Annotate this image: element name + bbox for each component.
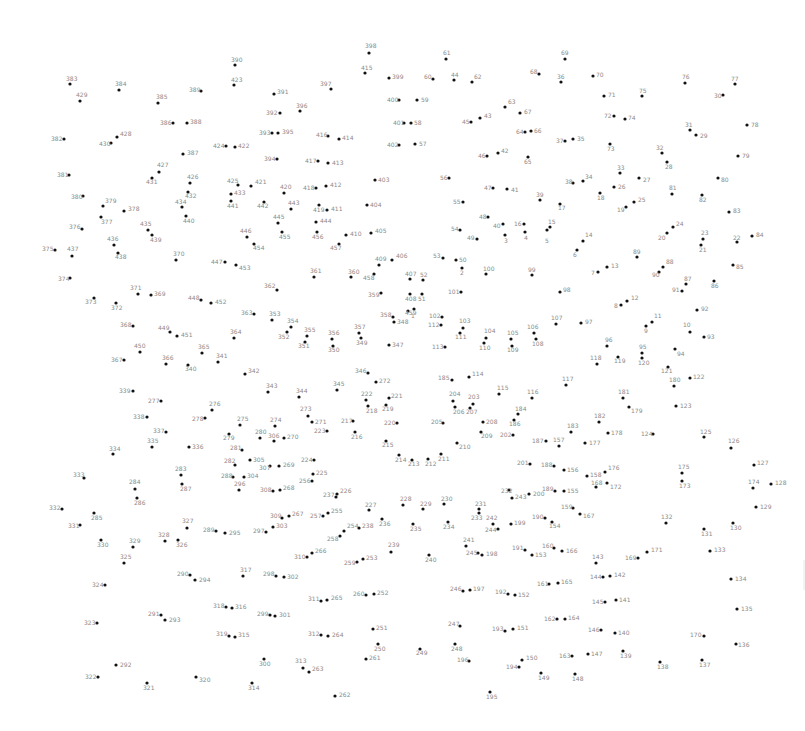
puzzle-dot-number: 132 bbox=[661, 513, 673, 520]
puzzle-dot-number: 205 bbox=[431, 418, 443, 425]
puzzle-dot bbox=[164, 430, 167, 433]
puzzle-dot bbox=[149, 293, 152, 296]
puzzle-dot-number: 18 bbox=[597, 194, 605, 201]
puzzle-dot-number: 250 bbox=[374, 645, 386, 652]
puzzle-dot bbox=[188, 181, 191, 184]
puzzle-dot-number: 222 bbox=[361, 390, 373, 397]
puzzle-dot-number: 204 bbox=[449, 390, 461, 397]
puzzle-dot bbox=[481, 420, 484, 423]
puzzle-dot-number: 265 bbox=[331, 594, 343, 601]
puzzle-dot bbox=[314, 220, 317, 223]
puzzle-dot-number: 422 bbox=[238, 142, 250, 149]
puzzle-dot bbox=[275, 288, 278, 291]
puzzle-dot bbox=[443, 345, 446, 348]
puzzle-dot-number: 313 bbox=[295, 657, 307, 664]
puzzle-dot bbox=[136, 292, 139, 295]
puzzle-dot bbox=[275, 157, 278, 160]
puzzle-dot-number: 456 bbox=[312, 233, 324, 240]
puzzle-dot-number: 184 bbox=[515, 405, 527, 412]
puzzle-dot bbox=[392, 320, 395, 323]
puzzle-dot-number: 346 bbox=[355, 367, 367, 374]
puzzle-dot-number: 71 bbox=[608, 91, 616, 98]
puzzle-dot-number: 398 bbox=[365, 42, 377, 49]
puzzle-dot-number: 300 bbox=[259, 660, 271, 667]
puzzle-dot-number: 101 bbox=[448, 288, 460, 295]
puzzle-dot bbox=[694, 133, 697, 136]
puzzle-dot-number: 207 bbox=[466, 408, 478, 415]
puzzle-dot-number: 149 bbox=[538, 674, 550, 681]
puzzle-dot bbox=[223, 531, 226, 534]
puzzle-dot bbox=[619, 303, 622, 306]
puzzle-dot bbox=[230, 606, 233, 609]
puzzle-dot bbox=[270, 131, 273, 134]
puzzle-dot-number: 388 bbox=[190, 118, 202, 125]
puzzle-dot bbox=[415, 98, 418, 101]
puzzle-dot bbox=[333, 694, 336, 697]
puzzle-dot-number: 342 bbox=[248, 367, 260, 374]
puzzle-dot bbox=[203, 416, 206, 419]
puzzle-dot-number: 327 bbox=[182, 517, 194, 524]
puzzle-dot bbox=[357, 331, 360, 334]
puzzle-dot bbox=[282, 436, 285, 439]
puzzle-dot bbox=[591, 74, 594, 77]
puzzle-dot-number: 365 bbox=[198, 343, 210, 350]
puzzle-dot bbox=[528, 462, 531, 465]
puzzle-dot-number: 278 bbox=[192, 415, 204, 422]
puzzle-dot-number: 147 bbox=[591, 650, 603, 657]
puzzle-dot bbox=[194, 675, 197, 678]
puzzle-dot-number: 201 bbox=[517, 459, 529, 466]
puzzle-dot bbox=[505, 187, 508, 190]
puzzle-dot bbox=[688, 376, 691, 379]
puzzle-dot-number: 12 bbox=[631, 294, 639, 301]
puzzle-labels: 1234567891011121314151617181920212223242… bbox=[42, 42, 787, 700]
puzzle-dot-number: 358 bbox=[380, 311, 392, 318]
puzzle-dot bbox=[96, 675, 99, 678]
puzzle-dot-number: 91 bbox=[672, 286, 680, 293]
puzzle-dot bbox=[312, 458, 315, 461]
puzzle-dot bbox=[229, 192, 232, 195]
puzzle-dot-number: 262 bbox=[339, 691, 351, 698]
puzzle-dot-number: 10 bbox=[683, 321, 691, 328]
puzzle-dot bbox=[223, 260, 226, 263]
puzzle-dot bbox=[115, 135, 118, 138]
puzzle-dot-number: 287 bbox=[180, 485, 192, 492]
puzzle-dot bbox=[708, 549, 711, 552]
puzzle-dot-number: 209 bbox=[481, 432, 493, 439]
puzzle-dot-number: 452 bbox=[215, 298, 227, 305]
puzzle-dot-number: 232 bbox=[501, 487, 513, 494]
puzzle-dot-number: 396 bbox=[296, 102, 308, 109]
puzzle-dot-number: 50 bbox=[459, 256, 467, 263]
puzzle-dot bbox=[145, 415, 148, 418]
puzzle-dot-number: 77 bbox=[731, 75, 739, 82]
puzzle-dot-number: 433 bbox=[234, 189, 246, 196]
puzzle-dot-number: 4 bbox=[524, 234, 528, 241]
puzzle-dot bbox=[447, 176, 450, 179]
puzzle-dot bbox=[664, 521, 667, 524]
puzzle-dot bbox=[754, 505, 757, 508]
puzzle-dot bbox=[510, 496, 513, 499]
puzzle-dot-number: 420 bbox=[280, 183, 292, 190]
puzzle-dot bbox=[334, 495, 337, 498]
puzzle-dot bbox=[361, 557, 364, 560]
puzzle-dot bbox=[319, 633, 322, 636]
puzzle-dot bbox=[367, 508, 370, 511]
puzzle-dot-number: 284 bbox=[129, 478, 141, 485]
puzzle-dot-number: 415 bbox=[361, 64, 373, 71]
puzzle-dot-number: 92 bbox=[701, 305, 709, 312]
puzzle-dot-number: 49 bbox=[467, 234, 475, 241]
puzzle-dot bbox=[599, 628, 602, 631]
puzzle-dot bbox=[721, 93, 724, 96]
puzzle-dot bbox=[316, 159, 319, 162]
puzzle-dot bbox=[374, 380, 377, 383]
puzzle-dot bbox=[307, 670, 310, 673]
puzzle-dot-number: 237 bbox=[323, 491, 335, 498]
puzzle-dot bbox=[571, 137, 574, 140]
puzzle-dot-number: 395 bbox=[282, 128, 294, 135]
puzzle-dot-number: 417 bbox=[305, 157, 317, 164]
puzzle-dot-number: 317 bbox=[240, 566, 252, 573]
puzzle-dot-number: 439 bbox=[150, 236, 162, 243]
puzzle-dot bbox=[274, 574, 277, 577]
puzzle-dot-number: 455 bbox=[279, 233, 291, 240]
puzzle-dot bbox=[379, 291, 382, 294]
puzzle-dot-number: 428 bbox=[120, 130, 132, 137]
